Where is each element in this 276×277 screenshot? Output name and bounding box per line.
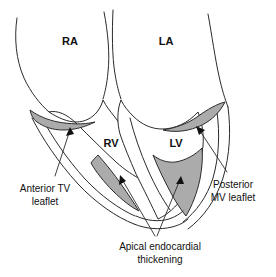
left-atrium-septal-wall: [112, 10, 121, 99]
chamber-label-ra: RA: [62, 35, 78, 47]
annotation-posterior-mv-leaflet-line2: MV leaflet: [211, 192, 256, 203]
annotation-apical-thickening-line1: Apical endocardial: [119, 241, 201, 252]
heart-diagram-figure: RA LA RV LV Anterior TV leaflet Posterio…: [0, 0, 276, 277]
right-atrium-outline: [16, 18, 49, 112]
annotation-anterior-tv-leaflet-line1: Anterior TV: [20, 183, 71, 194]
anterior-tv-leaflet-leader: [55, 133, 69, 176]
posterior-mv-leaflet-leader: [200, 131, 227, 172]
annotation-posterior-mv-leaflet-line1: Posterior: [213, 179, 254, 190]
heart-anatomy-illustration: RA LA RV LV Anterior TV leaflet Posterio…: [0, 0, 276, 277]
right-atrium-septal-wall: [103, 12, 109, 99]
annotation-anterior-tv-leaflet-line2: leaflet: [32, 196, 59, 207]
chamber-label-rv: RV: [103, 137, 119, 149]
left-atrium-outline: [208, 14, 228, 107]
annotation-apical-thickening-line2: thickening: [137, 254, 182, 265]
chamber-label-la: LA: [159, 35, 174, 47]
chamber-label-lv: LV: [169, 137, 183, 149]
